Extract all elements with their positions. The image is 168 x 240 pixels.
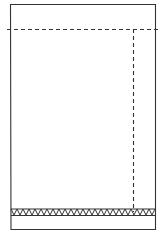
diagram-canvas (0, 0, 168, 240)
hatched-band (11, 209, 156, 216)
